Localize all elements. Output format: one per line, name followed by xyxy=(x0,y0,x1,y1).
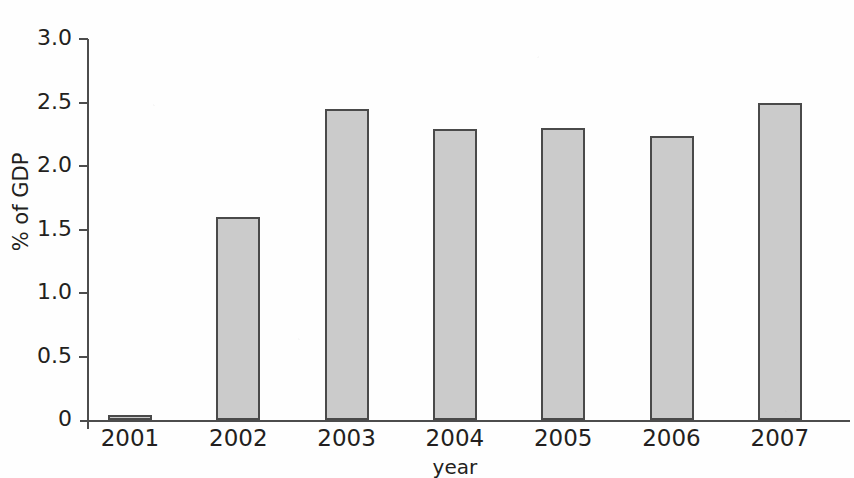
bar-2005 xyxy=(541,128,585,420)
bar-2004 xyxy=(433,129,477,420)
x-axis-tick-label: 2005 xyxy=(503,427,623,450)
x-axis-tick-label: 2004 xyxy=(395,427,515,450)
bar-chart-figure: % of GDP 3.02.52.01.51.00.50 20012002200… xyxy=(0,0,854,478)
y-axis-tick-label: 1.5 xyxy=(10,218,72,240)
y-axis-tick-label: 0.5 xyxy=(10,345,72,367)
y-axis-tick-label: 3.0 xyxy=(10,27,72,49)
bar-2002 xyxy=(216,217,260,420)
chart-title-cropped xyxy=(0,0,854,8)
y-axis-tick-mark xyxy=(79,356,88,358)
y-axis-tick-mark xyxy=(79,292,88,294)
y-axis-label: % of GDP xyxy=(9,132,33,272)
scan-noise-overlay xyxy=(0,0,854,478)
x-axis-tick-label: 2007 xyxy=(720,427,840,450)
x-axis-spine xyxy=(80,420,850,422)
x-axis-tick-label: 2002 xyxy=(178,427,298,450)
y-axis-tick-label: 2.5 xyxy=(10,91,72,113)
y-axis-tick-label: 2.0 xyxy=(10,154,72,176)
y-axis-tick-label: 0 xyxy=(10,408,72,430)
bar-2007 xyxy=(758,103,802,421)
x-axis-tick-label: 2001 xyxy=(70,427,190,450)
x-axis-tick-label: 2003 xyxy=(287,427,407,450)
y-axis-tick-mark xyxy=(79,165,88,167)
y-axis-tick-mark xyxy=(79,38,88,40)
y-axis-tick-mark xyxy=(79,229,88,231)
x-axis-tick-label: 2006 xyxy=(612,427,732,450)
bar-2006 xyxy=(650,136,694,420)
x-axis-label: year xyxy=(395,457,515,477)
bar-2003 xyxy=(325,109,369,420)
y-axis-tick-mark xyxy=(79,102,88,104)
y-axis-tick-label: 1.0 xyxy=(10,281,72,303)
